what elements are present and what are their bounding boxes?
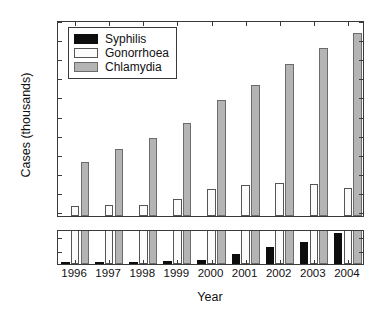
y-tick-60 — [58, 118, 62, 119]
bar-lower-gonorrhoea-1996 — [71, 230, 80, 264]
y-tick-30 — [58, 175, 62, 176]
lower-plot-area — [58, 231, 363, 264]
y-tick-110 — [58, 22, 62, 23]
bar-lower-gonorrhoea-2003 — [310, 230, 319, 264]
x-tick-2001 — [246, 260, 247, 264]
bar-lower-gonorrhoea-2002 — [275, 230, 284, 264]
x-tick-top-1996 — [75, 22, 76, 26]
bar-chlamydia-2001 — [251, 85, 260, 216]
bar-lower-chlamydia-2003 — [319, 230, 328, 264]
x-tick-1997 — [109, 260, 110, 264]
y-tick-right-80 — [359, 79, 363, 80]
legend-item-chlamydia[interactable]: Chlamydia — [74, 60, 169, 74]
legend-item-syphilis[interactable]: Syphilis — [74, 32, 169, 46]
y-tick-right-100 — [359, 41, 363, 42]
bar-lower-gonorrhoea-1998 — [139, 230, 148, 264]
bar-gonorrhoea-2001 — [241, 185, 250, 216]
lower-plot-panel — [57, 230, 364, 265]
y-tick-right-30 — [359, 175, 363, 176]
bar-lower-chlamydia-2002 — [285, 230, 294, 264]
y-tick-40 — [58, 156, 62, 157]
bar-lower-chlamydia-2000 — [217, 230, 226, 264]
bar-lower-syphilis-1998 — [129, 262, 138, 264]
bar-lower-chlamydia-1998 — [149, 230, 158, 264]
bar-lower-chlamydia-1996 — [81, 230, 90, 264]
y-tick-right-40 — [359, 156, 363, 157]
bar-lower-syphilis-1996 — [61, 262, 70, 264]
bar-gonorrhoea-1999 — [173, 199, 182, 216]
y-tick-right-90 — [359, 60, 363, 61]
bar-chlamydia-2002 — [285, 64, 294, 216]
x-tick-top-1998 — [143, 22, 144, 26]
bar-chlamydia-1996 — [81, 162, 90, 216]
y-tick-10 — [58, 213, 62, 214]
bar-lower-syphilis-2003 — [300, 242, 309, 264]
bar-lower-gonorrhoea-1997 — [105, 230, 114, 264]
x-tick-2003 — [314, 260, 315, 264]
legend-swatch-chlamydia — [74, 62, 98, 72]
bar-lower-chlamydia-2001 — [251, 230, 260, 264]
legend-label-chlamydia: Chlamydia — [105, 61, 162, 73]
bar-gonorrhoea-1996 — [71, 206, 80, 216]
bar-chlamydia-1997 — [115, 149, 124, 216]
legend-label-gonorrhoea: Gonorrhoea — [105, 47, 169, 59]
bar-lower-syphilis-2000 — [197, 260, 206, 264]
x-tick-top-2004 — [348, 22, 349, 26]
y-tick-20 — [58, 194, 62, 195]
y-tick-lower-1 — [58, 252, 62, 253]
legend-swatch-syphilis — [74, 34, 98, 44]
bar-lower-gonorrhoea-2000 — [207, 230, 216, 264]
y-tick-right-50 — [359, 137, 363, 138]
bar-lower-chlamydia-1999 — [183, 230, 192, 264]
x-tick-label-2004: 2004 — [327, 268, 367, 280]
x-tick-top-1997 — [109, 22, 110, 26]
bar-lower-gonorrhoea-2004 — [344, 230, 353, 264]
x-tick-top-2001 — [246, 22, 247, 26]
x-axis-label: Year — [55, 290, 365, 304]
bar-gonorrhoea-1998 — [139, 205, 148, 216]
y-tick-90 — [58, 60, 62, 61]
x-tick-2000 — [212, 260, 213, 264]
y-tick-right-20 — [359, 194, 363, 195]
y-axis-label: Cases (thousands) — [19, 55, 33, 195]
y-tick-lower-2 — [58, 238, 62, 239]
legend-label-syphilis: Syphilis — [105, 33, 146, 45]
bar-lower-gonorrhoea-1999 — [173, 230, 182, 264]
y-tick-right-110 — [359, 22, 363, 23]
bar-lower-syphilis-2002 — [266, 247, 275, 264]
x-tick-1996 — [75, 260, 76, 264]
legend-swatch-gonorrhoea — [74, 48, 98, 58]
x-tick-1998 — [143, 260, 144, 264]
bar-gonorrhoea-2003 — [310, 184, 319, 217]
bar-gonorrhoea-2000 — [207, 189, 216, 216]
bar-lower-chlamydia-1997 — [115, 230, 124, 264]
bar-chlamydia-2003 — [319, 48, 328, 216]
bar-lower-syphilis-2004 — [334, 233, 343, 264]
x-tick-2004 — [348, 260, 349, 264]
x-tick-2002 — [280, 260, 281, 264]
bar-lower-syphilis-2001 — [232, 254, 241, 264]
bar-chlamydia-1999 — [183, 123, 192, 216]
bar-lower-syphilis-1997 — [95, 262, 104, 264]
y-tick-right-70 — [359, 98, 363, 99]
x-tick-top-2003 — [314, 22, 315, 26]
x-tick-top-2002 — [280, 22, 281, 26]
bar-gonorrhoea-2004 — [344, 188, 353, 216]
y-tick-100 — [58, 41, 62, 42]
bar-gonorrhoea-2002 — [275, 183, 284, 216]
y-tick-lower-right-2 — [359, 238, 363, 239]
y-tick-lower-right-1 — [359, 252, 363, 253]
bar-lower-chlamydia-2004 — [353, 230, 362, 264]
chart-figure: Cases (thousands) Year 10203040506070809… — [0, 0, 374, 310]
y-tick-80 — [58, 79, 62, 80]
bar-lower-gonorrhoea-2001 — [241, 230, 250, 264]
bar-gonorrhoea-1997 — [105, 205, 114, 216]
chart-legend: SyphilisGonorrhoeaChlamydia — [68, 27, 177, 79]
bar-lower-syphilis-1999 — [163, 261, 172, 264]
bar-chlamydia-1998 — [149, 138, 158, 216]
bar-chlamydia-2000 — [217, 100, 226, 216]
x-tick-top-1999 — [177, 22, 178, 26]
legend-item-gonorrhoea[interactable]: Gonorrhoea — [74, 46, 169, 60]
y-tick-70 — [58, 98, 62, 99]
y-tick-50 — [58, 137, 62, 138]
